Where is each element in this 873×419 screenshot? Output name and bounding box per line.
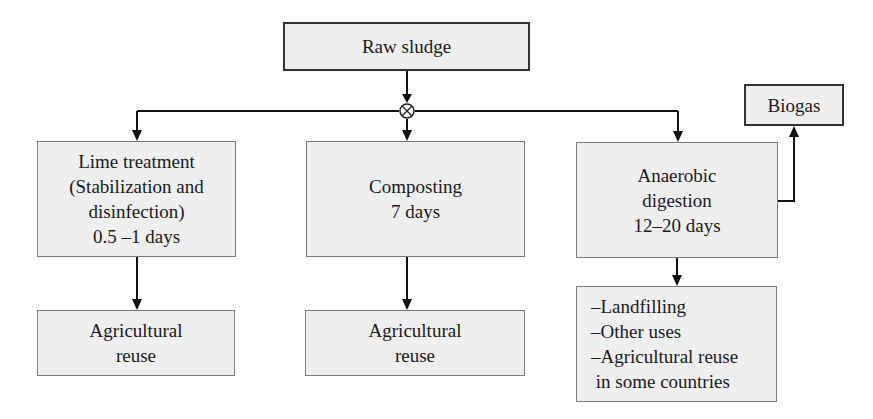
anaerobic-output-line-2: –Other uses [591, 319, 681, 344]
composting-line-1: Composting [369, 174, 462, 199]
lime-line-1: Lime treatment [78, 149, 195, 174]
composting-output-line-1: Agricultural [369, 318, 462, 343]
composting-output-line-2: reuse [395, 343, 435, 368]
anaerobic-line-1: Anaerobic [637, 163, 716, 188]
anaerobic-output-node: –Landfilling –Other uses –Agricultural r… [576, 286, 777, 402]
anaerobic-line-3: 12–20 days [633, 213, 720, 238]
biogas-label: Biogas [768, 93, 821, 118]
lime-treatment-node: Lime treatment (Stabilization and disinf… [37, 141, 236, 257]
raw-sludge-node: Raw sludge [283, 22, 530, 71]
lime-output-line-1: Agricultural [90, 318, 183, 343]
biogas-node: Biogas [744, 84, 844, 126]
anaerobic-line-2: digestion [642, 188, 712, 213]
lime-line-4: 0.5 –1 days [93, 224, 180, 249]
lime-line-2: (Stabilization and [69, 174, 204, 199]
anaerobic-output-line-1: –Landfilling [591, 294, 686, 319]
anaerobic-output-line-3: –Agricultural reuse [591, 344, 738, 369]
composting-output-node: Agricultural reuse [305, 310, 525, 376]
anaerobic-output-line-4: in some countries [591, 369, 730, 394]
composting-node: Composting 7 days [306, 141, 525, 257]
lime-line-3: disinfection) [88, 199, 184, 224]
anaerobic-digestion-node: Anaerobic digestion 12–20 days [576, 142, 778, 258]
raw-sludge-label: Raw sludge [362, 34, 451, 59]
lime-output-line-2: reuse [116, 343, 156, 368]
composting-line-2: 7 days [391, 199, 440, 224]
junction-icon [400, 104, 414, 118]
lime-output-node: Agricultural reuse [37, 310, 235, 376]
